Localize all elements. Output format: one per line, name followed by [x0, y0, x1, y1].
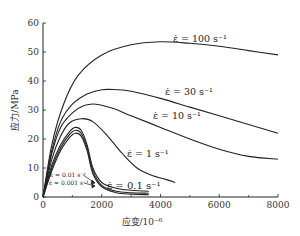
y-tick-label: 30 [28, 105, 40, 115]
y-tick-label: 60 [28, 18, 40, 28]
x-tick-label: 4000 [149, 200, 172, 210]
annotation-1: ε̇ = 1 s⁻¹ [127, 148, 169, 159]
annotation-30: ε̇ = 30 s⁻¹ [165, 86, 213, 97]
y-tick-label: 10 [28, 163, 40, 173]
x-tick-label: 8000 [267, 200, 290, 210]
x-tick-label: 0 [40, 200, 46, 210]
annotation-0.001: ε̇ = 0.001 s⁻¹ [49, 179, 89, 186]
y-tick-label: 0 [33, 192, 39, 202]
y-tick-label: 20 [28, 134, 40, 144]
x-tick-label: 2000 [90, 200, 113, 210]
y-axis-title: 应力/MPa [9, 89, 20, 131]
annotation-0.01: ε̇ = 0.01 s⁻¹ [50, 171, 86, 178]
y-tick-label: 40 [28, 76, 40, 86]
x-axis-title: 应变/10⁻⁶ [122, 216, 163, 227]
annotation-0.1: ε̇ = 0.1 s⁻¹ [107, 180, 160, 191]
annotation-10: ε̇ = 10 s⁻¹ [153, 110, 201, 121]
x-tick-label: 6000 [208, 200, 231, 210]
y-tick-label: 50 [28, 47, 40, 57]
annotation-100: ε̇ = 100 s⁻¹ [173, 33, 227, 44]
stress-strain-chart: 020004000600080000102030405060 ε̇ = 100 … [0, 0, 300, 236]
